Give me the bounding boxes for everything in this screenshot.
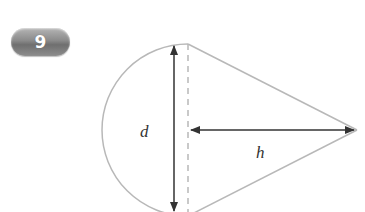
cone-side-top — [188, 44, 357, 130]
height-label: h — [256, 143, 265, 162]
cone-diagram: d h — [0, 0, 365, 212]
cone-side-bottom — [188, 130, 357, 212]
diameter-label: d — [140, 122, 149, 141]
